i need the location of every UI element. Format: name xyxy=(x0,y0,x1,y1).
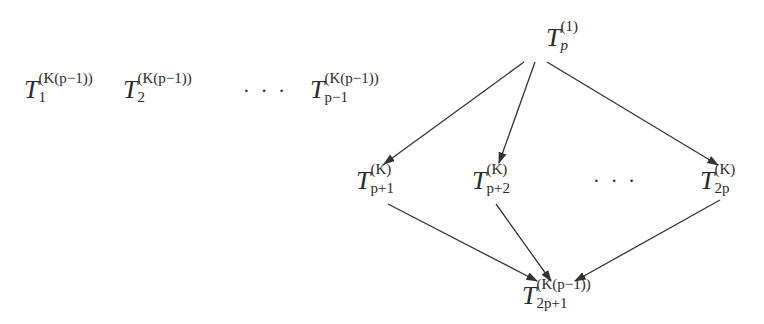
node-base: T xyxy=(123,75,137,104)
edge-tp-to-tp1 xyxy=(384,62,524,164)
node-base: T xyxy=(700,166,714,195)
node-base: T xyxy=(310,75,324,104)
node-superscript: (K) xyxy=(486,162,507,177)
node-superscript: (K) xyxy=(714,162,735,177)
node-t2: T(K(p−1))2 xyxy=(123,77,137,103)
node-base: T xyxy=(546,23,560,52)
node-base: T xyxy=(522,281,536,310)
edge-tp-to-t2p xyxy=(547,62,718,165)
node-t2p-plus-1-sink: T(K(p−1))2p+1 xyxy=(522,283,536,309)
node-subscript: 2p+1 xyxy=(536,296,567,311)
node-tp-plus-2: T(K)p+2 xyxy=(472,168,486,194)
node-subscript: 2p xyxy=(714,181,729,196)
node-base: T xyxy=(356,166,370,195)
node-subscript: p xyxy=(560,38,568,53)
node-subscript: 1 xyxy=(38,90,46,105)
edge-tp-to-tp2 xyxy=(499,62,535,163)
node-superscript: (K(p−1)) xyxy=(536,277,590,292)
edge-tp1-to-t2p1 xyxy=(388,204,537,281)
node-base: T xyxy=(472,166,486,195)
node-tp-minus-1: T(K(p−1))p−1 xyxy=(310,77,324,103)
node-subscript: p+2 xyxy=(486,181,509,196)
ellipsis-independent: · · · xyxy=(243,80,288,103)
node-base: T xyxy=(24,75,38,104)
node-superscript: (K(p−1)) xyxy=(324,71,378,86)
node-superscript: (K(p−1)) xyxy=(137,71,191,86)
node-superscript: (1) xyxy=(560,19,578,34)
node-subscript: p−1 xyxy=(324,90,347,105)
node-tp-plus-1: T(K)p+1 xyxy=(356,168,370,194)
node-subscript: p+1 xyxy=(370,181,393,196)
node-tp-root: T(1)p xyxy=(546,25,560,51)
node-superscript: (K(p−1)) xyxy=(38,71,92,86)
edge-t2p-to-t2p1 xyxy=(575,200,720,281)
node-superscript: (K) xyxy=(370,162,391,177)
edge-tp2-to-t2p1 xyxy=(496,204,551,281)
ellipsis-middle: · · · xyxy=(593,170,638,193)
node-subscript: 2 xyxy=(137,90,145,105)
node-t2p: T(K)2p xyxy=(700,168,714,194)
node-t1: T(K(p−1))1 xyxy=(24,77,38,103)
